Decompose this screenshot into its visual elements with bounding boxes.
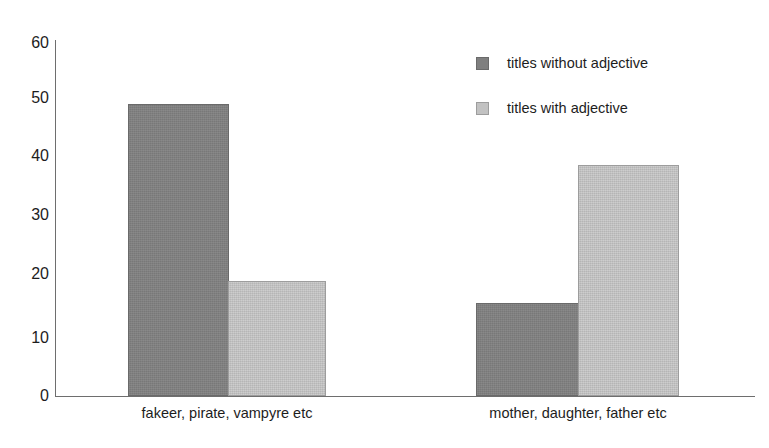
x-axis-label-group1: fakeer, pirate, vampyre etc <box>97 404 357 422</box>
y-tick-label-20: 20 <box>5 266 49 282</box>
legend-label-without-adjective: titles without adjective <box>507 54 648 72</box>
legend-swatch-dark-icon <box>476 57 489 70</box>
bar-group1-without-adjective <box>128 104 229 396</box>
legend-label-with-adjective: titles with adjective <box>507 99 628 117</box>
legend-item-with-adjective: titles with adjective <box>476 99 648 117</box>
x-axis-line <box>55 396 755 397</box>
y-tick-label-30: 30 <box>5 207 49 223</box>
legend-item-without-adjective: titles without adjective <box>476 54 648 72</box>
y-tick-label-0: 0 <box>5 388 49 404</box>
y-axis-tick-labels: 60 50 40 30 20 10 0 <box>0 0 49 448</box>
legend-swatch-light-icon <box>476 102 489 115</box>
y-tick-label-10: 10 <box>5 330 49 346</box>
bar-group2-without-adjective <box>476 303 579 396</box>
x-axis-label-group2: mother, daughter, father etc <box>448 404 708 422</box>
plot-area: 60 50 40 30 20 10 0 fakeer, pirate, vamp… <box>0 0 769 448</box>
y-axis-line <box>55 40 56 397</box>
y-tick-label-50: 50 <box>5 90 49 106</box>
legend: titles without adjective titles with adj… <box>476 54 648 144</box>
bar-group2-with-adjective <box>578 165 679 396</box>
y-tick-label-40: 40 <box>5 148 49 164</box>
bar-chart: 60 50 40 30 20 10 0 fakeer, pirate, vamp… <box>0 0 769 448</box>
bar-group1-with-adjective <box>228 281 326 396</box>
y-tick-label-60: 60 <box>5 35 49 51</box>
